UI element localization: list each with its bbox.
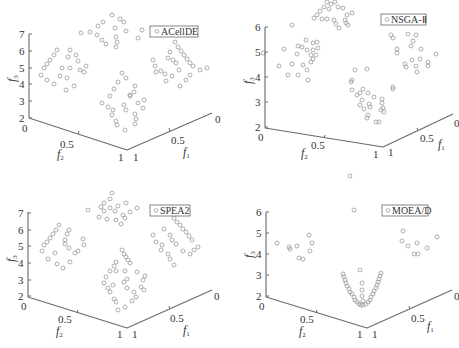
panel-acellde: 7 6 5 4 3 2 0 0.5 1 1 0.5 0 f3 f2 f1 ACe… <box>5 13 221 163</box>
svg-text:0.5: 0.5 <box>58 313 72 325</box>
svg-text:1: 1 <box>133 151 139 163</box>
svg-text:0: 0 <box>214 290 220 302</box>
svg-text:1: 1 <box>357 328 363 340</box>
panel-moead: 6 5 4 3 2 0 0.5 1 1 0.5 0 f3 f2 f1 MOEA/… <box>242 174 459 340</box>
svg-text:0: 0 <box>454 290 459 302</box>
svg-text:5: 5 <box>256 227 262 239</box>
svg-text:5: 5 <box>19 62 25 74</box>
f1-label: f1 <box>438 137 445 152</box>
f3-label: f3 <box>4 255 19 262</box>
svg-text:7: 7 <box>19 28 25 40</box>
f2-label: f2 <box>301 146 308 161</box>
svg-text:1: 1 <box>372 328 378 340</box>
svg-text:3: 3 <box>19 95 25 107</box>
legend: SPEA2 <box>150 205 190 216</box>
f1-label: f1 <box>183 145 190 160</box>
svg-text:SPEA2: SPEA2 <box>160 205 189 216</box>
legend: ACellDE <box>150 26 198 37</box>
svg-text:5: 5 <box>255 46 261 58</box>
legend: NSGA-Ⅱ <box>381 14 427 25</box>
svg-text:0: 0 <box>215 113 221 125</box>
svg-text:1: 1 <box>388 146 394 158</box>
svg-text:0: 0 <box>258 131 264 143</box>
f3-label: f3 <box>241 77 256 84</box>
svg-text:0: 0 <box>454 117 459 129</box>
svg-text:6: 6 <box>19 45 25 57</box>
svg-text:1: 1 <box>132 328 138 340</box>
z-tick-labels: 7 6 5 4 3 2 <box>18 207 24 302</box>
svg-text:0.5: 0.5 <box>60 138 74 150</box>
legend: MOEA/D <box>382 205 431 216</box>
svg-text:1: 1 <box>117 328 123 340</box>
svg-text:4: 4 <box>19 78 25 90</box>
svg-text:0.5: 0.5 <box>311 139 325 151</box>
f1-label: f1 <box>183 323 190 338</box>
f1-label: f1 <box>427 319 434 334</box>
svg-text:NSGA-Ⅱ: NSGA-Ⅱ <box>391 14 427 25</box>
svg-text:1: 1 <box>118 151 124 163</box>
f2-label: f2 <box>56 324 63 339</box>
z-tick-labels: 6 5 4 3 2 <box>255 21 261 133</box>
panel-nsga2: 6 5 4 3 2 0 0.5 1 1 0.5 0 f3 f2 f1 NSGA-… <box>241 0 459 161</box>
svg-text:0: 0 <box>21 300 27 312</box>
svg-text:6: 6 <box>256 206 262 218</box>
f2-label: f2 <box>299 324 306 339</box>
svg-text:6: 6 <box>255 21 261 33</box>
svg-text:6: 6 <box>18 224 24 236</box>
panel-spea2: 7 6 5 4 3 2 0 0.5 1 1 0.5 0 f3 f2 f1 SPE… <box>4 191 220 340</box>
f3-label: f3 <box>5 75 20 82</box>
svg-text:0: 0 <box>259 300 265 312</box>
svg-text:ACellDE: ACellDE <box>161 26 198 37</box>
f1-axis <box>127 113 212 150</box>
svg-text:0: 0 <box>22 122 28 134</box>
svg-text:0.5: 0.5 <box>420 132 434 144</box>
svg-text:3: 3 <box>256 269 262 281</box>
svg-text:3: 3 <box>18 274 24 286</box>
figure: 7 6 5 4 3 2 0 0.5 1 1 0.5 0 f3 f2 f1 ACe… <box>0 0 459 348</box>
f3-label: f3 <box>242 251 257 258</box>
svg-text:0.5: 0.5 <box>411 312 425 324</box>
svg-text:7: 7 <box>18 207 24 219</box>
svg-text:1: 1 <box>373 148 379 160</box>
svg-text:MOEA/D: MOEA/D <box>392 205 431 216</box>
svg-text:5: 5 <box>18 240 24 252</box>
scatter-points <box>275 174 439 307</box>
svg-text:3: 3 <box>255 96 261 108</box>
